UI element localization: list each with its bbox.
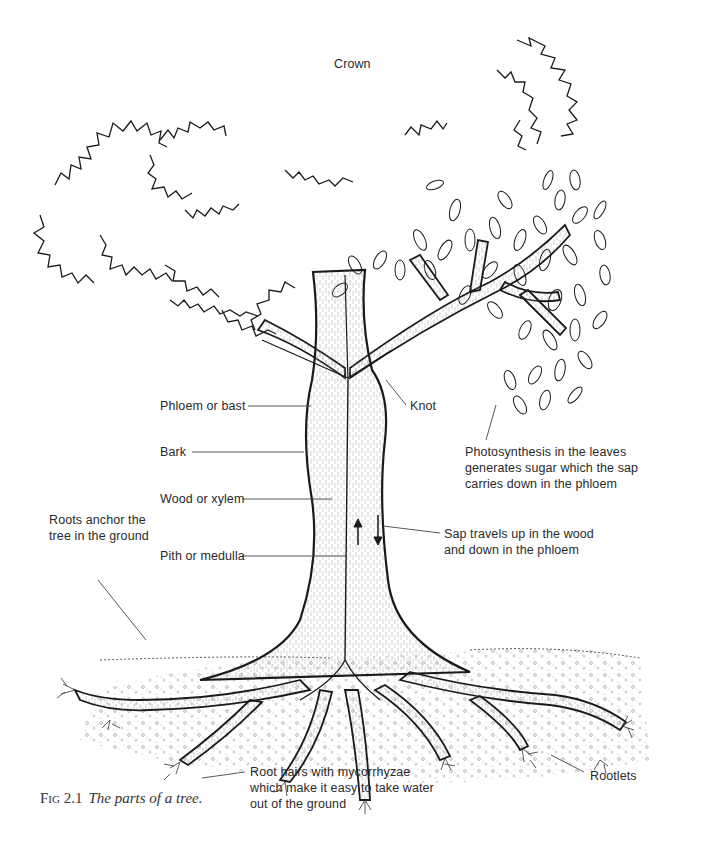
label-sap: Sap travels up in the wood and down in t… [444, 526, 594, 558]
figure-title: The parts of a tree. [88, 790, 202, 806]
label-wood: Wood or xylem [160, 491, 244, 507]
label-knot: Knot [410, 398, 436, 414]
leader-sap [383, 526, 440, 533]
leader-photosynthesis [486, 405, 496, 440]
tree-illustration [0, 0, 713, 854]
label-roots-anchor: Roots anchor the tree in the ground [49, 512, 149, 544]
figure-number: Fig 2.1 [40, 790, 82, 806]
label-photosynthesis: Photosynthesis in the leaves generates s… [465, 444, 638, 492]
label-pith: Pith or medulla [160, 548, 245, 564]
label-bark: Bark [160, 444, 186, 460]
trunk [200, 270, 470, 700]
figure-caption: Fig 2.1The parts of a tree. [40, 790, 202, 807]
label-rootlets: Rootlets [590, 768, 637, 784]
label-crown: Crown [334, 56, 371, 72]
leader-roots [98, 580, 146, 640]
leader-root-hairs [202, 772, 245, 778]
branches [258, 225, 570, 378]
label-phloem: Phloem or bast [160, 398, 245, 414]
label-root-hairs: Root hairs with mycorrhyzae which make i… [250, 764, 434, 812]
leader-knot [386, 380, 406, 405]
